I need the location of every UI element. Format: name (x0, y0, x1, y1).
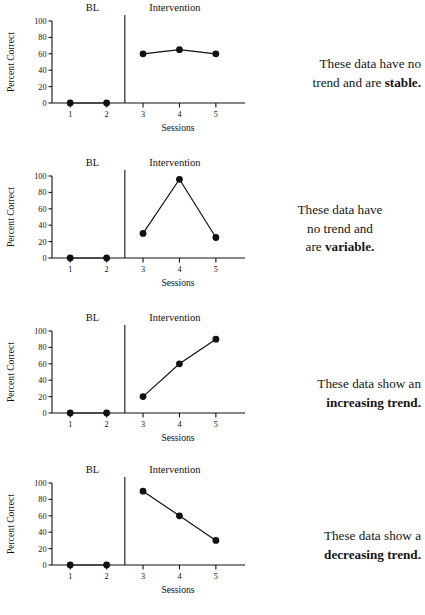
y-tick-label: 100 (34, 327, 46, 336)
y-tick-label: 20 (38, 393, 46, 402)
data-point (176, 46, 183, 53)
data-point (103, 255, 110, 262)
y-axis-label: Percent Correct (5, 494, 16, 554)
y-tick-label: 0 (42, 254, 46, 263)
data-point (140, 393, 147, 400)
data-point (67, 100, 74, 107)
x-tick-label: 5 (214, 572, 218, 581)
panel-variable: Percent Correct02040608010012345Sessions… (0, 155, 425, 310)
data-point (140, 230, 147, 237)
x-tick-label: 2 (105, 110, 109, 119)
y-tick-label: 40 (38, 221, 46, 230)
y-tick-label: 20 (38, 545, 46, 554)
x-tick-label: 4 (177, 420, 181, 429)
y-tick-label: 100 (34, 17, 46, 26)
x-tick-label: 1 (68, 110, 72, 119)
y-tick-label: 80 (38, 495, 46, 504)
data-path-intervention (143, 179, 216, 237)
y-tick-label: 20 (38, 83, 46, 92)
panel-decreasing: Percent Correct02040608010012345Sessions… (0, 462, 425, 615)
x-tick-label: 5 (214, 420, 218, 429)
caption-line: These data have no (236, 55, 421, 74)
y-tick-label: 20 (38, 238, 46, 247)
intervention-phase-label: Intervention (149, 157, 201, 168)
data-point (212, 234, 219, 241)
x-axis-label: Sessions (161, 432, 194, 443)
x-tick-label: 2 (105, 265, 109, 274)
x-tick-label: 4 (177, 265, 181, 274)
data-point (176, 176, 183, 183)
x-tick-label: 1 (68, 420, 72, 429)
caption-line: These data have (265, 201, 415, 220)
x-axis-label: Sessions (161, 277, 194, 288)
x-tick-label: 1 (68, 572, 72, 581)
y-tick-label: 80 (38, 343, 46, 352)
single-case-design-figure: Percent Correct02040608010012345Sessions… (0, 0, 425, 615)
intervention-phase-label: Intervention (149, 464, 201, 475)
x-tick-label: 3 (141, 265, 145, 274)
x-tick-label: 2 (105, 420, 109, 429)
panel-caption: These data haveno trend andare variable. (265, 201, 415, 257)
y-tick-label: 40 (38, 528, 46, 537)
y-axis-label: Percent Correct (5, 32, 16, 92)
data-point (140, 488, 147, 495)
chart-plot-area: Percent Correct02040608010012345Sessions… (0, 462, 260, 615)
y-tick-label: 60 (38, 50, 46, 59)
data-point (140, 50, 147, 57)
panel-caption: These data show adecreasing trend. (236, 527, 421, 564)
data-point (212, 50, 219, 57)
x-tick-label: 4 (177, 110, 181, 119)
x-tick-label: 5 (214, 265, 218, 274)
data-point (67, 562, 74, 569)
panel-increasing: Percent Correct02040608010012345Sessions… (0, 310, 425, 465)
panel-stable: Percent Correct02040608010012345Sessions… (0, 0, 425, 155)
data-point (212, 336, 219, 343)
y-tick-label: 0 (42, 561, 46, 570)
x-tick-label: 3 (141, 572, 145, 581)
baseline-phase-label: BL (86, 2, 99, 13)
intervention-phase-label: Intervention (149, 312, 201, 323)
data-point (212, 537, 219, 544)
x-tick-label: 3 (141, 420, 145, 429)
y-tick-label: 40 (38, 66, 46, 75)
x-axis-label: Sessions (161, 584, 194, 595)
chart-canvas: Percent Correct02040608010012345Sessions… (0, 155, 260, 310)
x-tick-label: 3 (141, 110, 145, 119)
data-point (103, 562, 110, 569)
data-path-intervention (143, 339, 216, 396)
y-tick-label: 100 (34, 172, 46, 181)
y-axis-label: Percent Correct (5, 342, 16, 402)
chart-plot-area: Percent Correct02040608010012345Sessions… (0, 310, 260, 465)
panel-caption: These data have notrend and are stable. (236, 55, 421, 92)
data-point (176, 512, 183, 519)
chart-canvas: Percent Correct02040608010012345Sessions… (0, 462, 260, 615)
y-tick-label: 80 (38, 33, 46, 42)
y-tick-label: 0 (42, 99, 46, 108)
caption-emphasis: variable. (325, 239, 374, 254)
y-tick-label: 60 (38, 512, 46, 521)
caption-line: no trend and (265, 220, 415, 239)
intervention-phase-label: Intervention (149, 2, 201, 13)
caption-emphasis: stable. (385, 75, 421, 90)
data-point (67, 410, 74, 417)
caption-line: These data show a (236, 527, 421, 546)
caption-emphasis: decreasing trend. (324, 547, 421, 562)
chart-canvas: Percent Correct02040608010012345Sessions… (0, 310, 260, 465)
y-tick-label: 100 (34, 479, 46, 488)
chart-plot-area: Percent Correct02040608010012345Sessions… (0, 0, 260, 155)
caption-line: These data show an (236, 375, 421, 394)
chart-plot-area: Percent Correct02040608010012345Sessions… (0, 155, 260, 310)
data-point (103, 100, 110, 107)
baseline-phase-label: BL (86, 464, 99, 475)
y-tick-label: 60 (38, 360, 46, 369)
y-tick-label: 80 (38, 188, 46, 197)
caption-line: trend and are (313, 75, 385, 90)
data-point (103, 410, 110, 417)
x-tick-label: 4 (177, 572, 181, 581)
chart-canvas: Percent Correct02040608010012345Sessions… (0, 0, 260, 155)
x-tick-label: 5 (214, 110, 218, 119)
y-tick-label: 0 (42, 409, 46, 418)
caption-emphasis: increasing trend. (326, 395, 421, 410)
caption-line: are (306, 239, 325, 254)
baseline-phase-label: BL (86, 312, 99, 323)
